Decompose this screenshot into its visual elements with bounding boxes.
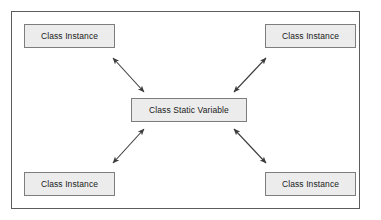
node-class-instance-top-left: Class Instance bbox=[24, 24, 115, 48]
node-label: Class Static Variable bbox=[149, 106, 229, 115]
node-class-instance-bottom-right: Class Instance bbox=[265, 172, 356, 196]
node-label: Class Instance bbox=[41, 32, 98, 41]
diagram-canvas: Class Instance Class Instance Class Stat… bbox=[0, 0, 381, 220]
node-label: Class Instance bbox=[282, 180, 339, 189]
node-label: Class Instance bbox=[41, 180, 98, 189]
node-class-instance-top-right: Class Instance bbox=[265, 24, 356, 48]
node-class-instance-bottom-left: Class Instance bbox=[24, 172, 115, 196]
node-label: Class Instance bbox=[282, 32, 339, 41]
node-class-static-variable: Class Static Variable bbox=[131, 98, 247, 122]
